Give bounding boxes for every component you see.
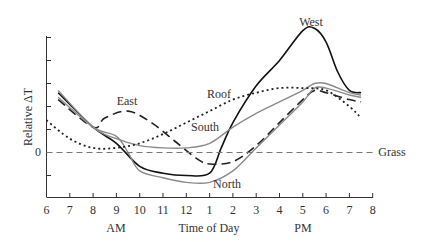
label-west: West [299, 15, 323, 29]
x-tick-label: 2 [230, 203, 236, 217]
series-group [47, 27, 373, 184]
x-tick-label: 6 [323, 203, 329, 217]
label-south: South [191, 120, 219, 134]
x-tick-label: 10 [134, 203, 146, 217]
x-tick-label: 4 [277, 203, 283, 217]
x-tick-label: 5 [300, 203, 306, 217]
series-west [58, 27, 361, 176]
label-east: East [117, 94, 138, 108]
series-roof [47, 88, 362, 149]
x-tick-label: 7 [67, 203, 73, 217]
x-tick-labels: 678910111212345678 [44, 203, 376, 217]
x-tick-label: 11 [157, 203, 169, 217]
x-tick-label: 12 [180, 203, 192, 217]
x-tick-label: 3 [253, 203, 259, 217]
x-tick-label: 6 [44, 203, 50, 217]
label-north: North [213, 177, 241, 191]
x-tick-label: 9 [113, 203, 119, 217]
x-tick-label: 1 [207, 203, 213, 217]
x-tick-label: 8 [90, 203, 96, 217]
am-label: AM [106, 221, 126, 235]
label-roof: Roof [207, 87, 231, 101]
x-tick-label: 7 [346, 203, 352, 217]
x-axis-label: Time of Day [179, 221, 240, 235]
label-grass: Grass [378, 145, 406, 159]
x-tick-label: 8 [370, 203, 376, 217]
y-zero-label: 0 [35, 145, 41, 159]
pm-label: PM [294, 221, 312, 235]
temperature-chart: 678910111212345678 0 Relative ΔT Time of… [0, 0, 423, 242]
y-axis-label: Relative ΔT [21, 87, 35, 146]
